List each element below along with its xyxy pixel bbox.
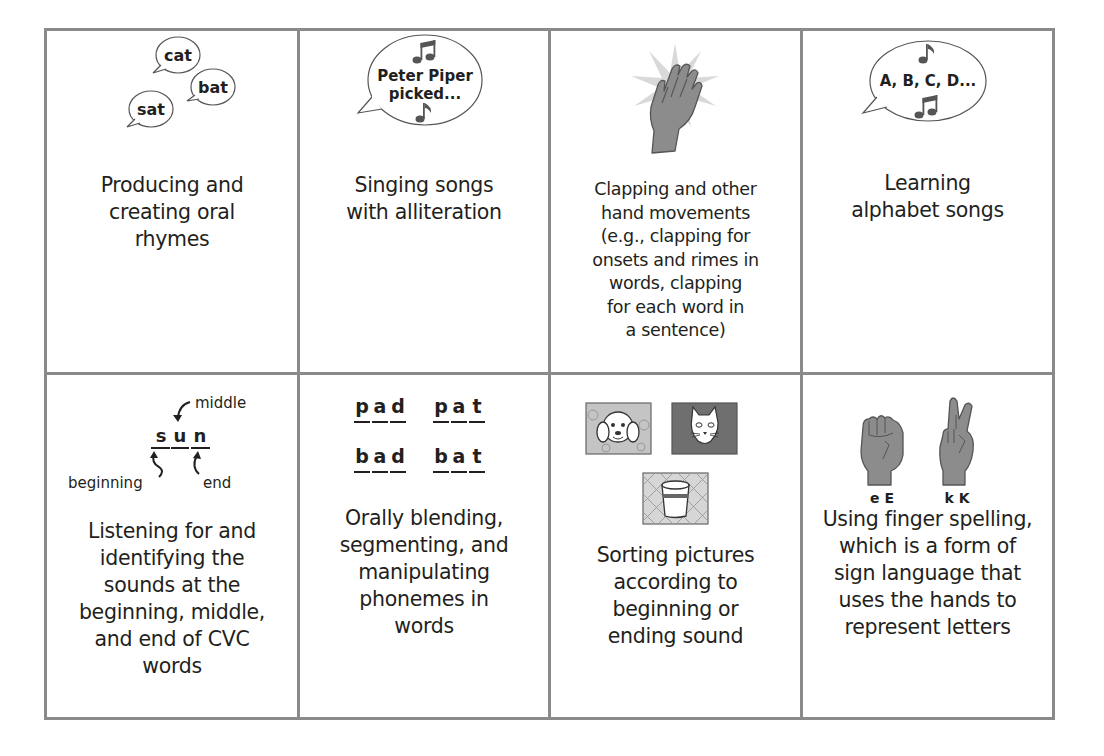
svg-text:a: a — [374, 445, 387, 467]
svg-text:d: d — [391, 445, 405, 467]
picture-cards-icon — [551, 375, 800, 525]
svg-text:cat: cat — [164, 46, 192, 65]
svg-text:k K: k K — [944, 490, 970, 506]
svg-text:p: p — [355, 395, 369, 417]
caption-picture-sorting: Sorting pictures according to beginning … — [551, 542, 800, 650]
cell-finger-spelling: e E k K Using finger spelling, which is … — [803, 375, 1052, 717]
caption-clapping: Clapping and other hand movements (e.g.,… — [551, 178, 800, 343]
svg-text:a: a — [374, 395, 387, 417]
svg-text:sat: sat — [137, 100, 165, 119]
svg-text:picked...: picked... — [389, 85, 461, 103]
svg-text:middle: middle — [195, 394, 246, 412]
cell-cvc-sounds: middle s u n beginning end Listening for… — [47, 375, 297, 717]
svg-text:a: a — [453, 445, 466, 467]
singing-bubble-icon: Peter Piper picked... — [300, 31, 548, 161]
svg-text:t: t — [472, 445, 481, 467]
speech-bubbles-icon: cat bat sat — [47, 31, 297, 161]
svg-text:n: n — [194, 425, 207, 446]
cat-picture-icon — [672, 403, 737, 454]
hand-sign-k-icon — [940, 398, 974, 485]
hand-sign-e-icon — [861, 416, 903, 485]
svg-text:d: d — [391, 395, 405, 417]
caption-oral-rhymes: Producing and creating oral rhymes — [47, 172, 297, 253]
svg-text:end: end — [203, 474, 231, 492]
svg-text:A, B, C, D...: A, B, C, D... — [880, 72, 977, 90]
phoneme-words-icon: p a d p a t b a d b a t — [300, 375, 548, 485]
svg-text:u: u — [174, 425, 187, 446]
activities-grid: cat bat sat Producing and creating oral … — [44, 28, 1055, 720]
svg-text:b: b — [355, 445, 369, 467]
svg-text:a: a — [453, 395, 466, 417]
svg-text:beginning: beginning — [68, 474, 143, 492]
cell-oral-rhymes: cat bat sat Producing and creating oral … — [47, 31, 297, 372]
cell-picture-sorting: Sorting pictures according to beginning … — [551, 375, 800, 717]
caption-cvc-sounds: Listening for and identifying the sounds… — [47, 518, 297, 680]
svg-text:s: s — [156, 425, 167, 446]
alphabet-song-bubble-icon: A, B, C, D... — [803, 31, 1052, 161]
sun-word-diagram-icon: middle s u n beginning end — [47, 375, 297, 505]
caption-finger-spelling: Using finger spelling, which is a form o… — [803, 506, 1052, 641]
caption-alliteration-songs: Singing songs with alliteration — [300, 172, 548, 226]
svg-text:p: p — [434, 395, 448, 417]
svg-text:bat: bat — [198, 78, 228, 97]
clapping-hand-icon — [551, 31, 800, 171]
dog-picture-icon — [586, 403, 651, 454]
svg-text:b: b — [434, 445, 448, 467]
svg-text:t: t — [472, 395, 481, 417]
finger-spelling-hands-icon: e E k K — [803, 375, 1052, 515]
cell-alphabet-songs: A, B, C, D... Learning alphabet songs — [803, 31, 1052, 372]
cell-alliteration-songs: Peter Piper picked... Singing songs with… — [300, 31, 548, 372]
svg-text:e E: e E — [870, 490, 894, 506]
cell-clapping: Clapping and other hand movements (e.g.,… — [551, 31, 800, 372]
svg-text:Peter Piper: Peter Piper — [377, 67, 473, 85]
cup-picture-icon — [643, 473, 708, 524]
caption-alphabet-songs: Learning alphabet songs — [803, 170, 1052, 224]
caption-phoneme-manipulation: Orally blending, segmenting, and manipul… — [300, 505, 548, 640]
cell-phoneme-manipulation: p a d p a t b a d b a t Orally blending,… — [300, 375, 548, 717]
